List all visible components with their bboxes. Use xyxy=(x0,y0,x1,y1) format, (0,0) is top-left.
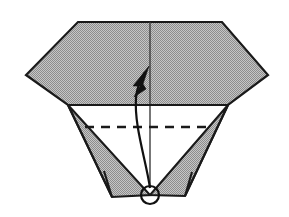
origami-illustration-canvas xyxy=(0,0,289,217)
upper-paper-body xyxy=(26,22,268,105)
origami-diagram-figure xyxy=(0,0,289,217)
